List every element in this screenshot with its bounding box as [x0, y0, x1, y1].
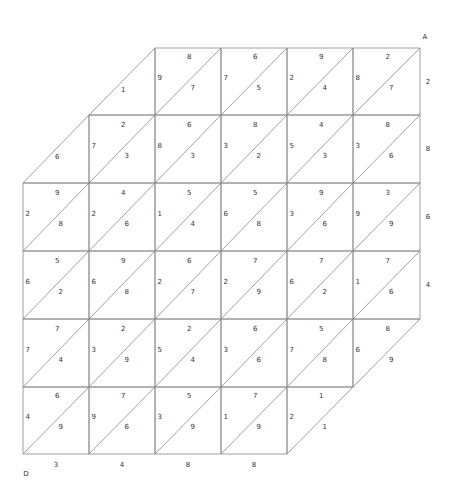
cell-top-digit: 7 [386, 257, 390, 264]
cell-left-digit: 8 [355, 75, 359, 82]
cell-left-digit: 6 [223, 210, 227, 217]
cell-top-digit: 5 [187, 189, 191, 196]
cell-left-digit: 5 [157, 346, 161, 353]
cell-top-digit: 5 [55, 257, 59, 264]
cell-top-digit: 7 [55, 325, 59, 332]
corner-label-a: A [423, 34, 428, 41]
right-edge-label: 4 [426, 282, 430, 289]
cell-bottom-digit: 3 [190, 152, 194, 159]
cell-bottom-digit: 6 [124, 424, 128, 431]
cell-top-digit: 7 [253, 257, 257, 264]
cell-top-digit: 6 [55, 393, 59, 400]
cell-bottom-digit: 8 [58, 220, 62, 227]
cell-top-digit: 5 [319, 325, 323, 332]
cell-left-digit: 4 [25, 414, 29, 421]
cell-bottom-digit: 3 [322, 152, 326, 159]
cell-top-digit: 4 [319, 121, 323, 128]
corner-label-d: D [23, 471, 28, 478]
cell-bottom-digit: 4 [322, 85, 326, 92]
cell-top-digit: 6 [187, 121, 191, 128]
right-edge-label: 8 [426, 146, 430, 153]
cell-bottom-digit: 4 [58, 356, 62, 363]
cell-bottom-digit: 9 [190, 424, 194, 431]
cell-bottom-digit: 4 [190, 356, 194, 363]
cell-left-digit: 6 [355, 346, 359, 353]
cell-left-digit: 6 [91, 278, 95, 285]
cell-left-digit: 9 [91, 414, 95, 421]
cell-left-digit: 2 [289, 75, 293, 82]
cell-top-digit: 7 [253, 393, 257, 400]
cell-bottom-digit: 9 [124, 356, 128, 363]
cell-bottom-digit: 9 [58, 424, 62, 431]
cell-bottom-digit: 6 [256, 356, 260, 363]
cell-bottom-digit: 8 [256, 220, 260, 227]
bottom-edge-label: 4 [120, 462, 124, 469]
cell-left-digit: 1 [157, 210, 161, 217]
cell-bottom-digit: 6 [55, 154, 59, 161]
cell-bottom-digit: 5 [256, 85, 260, 92]
cell-top-digit: 9 [319, 189, 323, 196]
cell-bottom-digit: 4 [190, 220, 194, 227]
cell-bottom-digit: 1 [121, 86, 125, 93]
bottom-edge-label: 8 [186, 462, 190, 469]
bottom-edge-label: 3 [54, 462, 58, 469]
lattice-multiplication-grid: A D 189767592428762736838324538369284265… [0, 0, 455, 501]
right-edge-label: 2 [426, 78, 430, 85]
cell-bottom-digit: 7 [190, 85, 194, 92]
cell-left-digit: 3 [355, 142, 359, 149]
cell-left-digit: 3 [223, 142, 227, 149]
cell-top-digit: 3 [386, 189, 390, 196]
cell-bottom-digit: 7 [190, 288, 194, 295]
cell-bottom-digit: 7 [389, 85, 393, 92]
cell-left-digit: 2 [289, 414, 293, 421]
cell-bottom-digit: 3 [124, 152, 128, 159]
cell-bottom-digit: 8 [322, 356, 326, 363]
cell-top-digit: 8 [386, 121, 390, 128]
cell-top-digit: 4 [121, 189, 125, 196]
cell-left-digit: 1 [355, 278, 359, 285]
cell-left-digit: 2 [157, 278, 161, 285]
cell-left-digit: 3 [157, 414, 161, 421]
cell-bottom-digit: 2 [58, 288, 62, 295]
cell-left-digit: 8 [157, 142, 161, 149]
cell-left-digit: 3 [91, 346, 95, 353]
cell-top-digit: 9 [55, 189, 59, 196]
cell-bottom-digit: 9 [389, 220, 393, 227]
cell-left-digit: 6 [25, 278, 29, 285]
cell-top-digit: 5 [187, 393, 191, 400]
cell-bottom-digit: 8 [124, 288, 128, 295]
cell-top-digit: 7 [121, 393, 125, 400]
cell-left-digit: 2 [223, 278, 227, 285]
cell-top-digit: 7 [319, 257, 323, 264]
cell-top-digit: 6 [253, 54, 257, 61]
cell-top-digit: 8 [187, 54, 191, 61]
bottom-edge-label: 8 [252, 462, 256, 469]
cell-top-digit: 8 [253, 121, 257, 128]
cell-left-digit: 6 [289, 278, 293, 285]
cell-top-digit: 2 [386, 54, 390, 61]
cell-left-digit: 7 [289, 346, 293, 353]
cell-bottom-digit: 6 [389, 288, 393, 295]
cell-bottom-digit: 9 [256, 288, 260, 295]
cell-bottom-digit: 6 [389, 152, 393, 159]
cell-top-digit: 5 [253, 189, 257, 196]
cell-left-digit: 9 [157, 75, 161, 82]
cell-bottom-digit: 2 [256, 152, 260, 159]
cell-bottom-digit: 6 [124, 220, 128, 227]
right-edge-label: 6 [426, 214, 430, 221]
cell-top-digit: 2 [121, 325, 125, 332]
cell-left-digit: 2 [25, 210, 29, 217]
cell-left-digit: 1 [223, 414, 227, 421]
cell-bottom-digit: 6 [322, 220, 326, 227]
cell-left-digit: 7 [223, 75, 227, 82]
cell-top-digit: 2 [187, 325, 191, 332]
cell-top-digit: 6 [187, 257, 191, 264]
cell-left-digit: 3 [289, 210, 293, 217]
cell-bottom-digit: 9 [256, 424, 260, 431]
cell-left-digit: 7 [91, 142, 95, 149]
cell-left-digit: 7 [25, 346, 29, 353]
cell-bottom-digit: 2 [322, 288, 326, 295]
cell-left-digit: 3 [223, 346, 227, 353]
cell-top-digit: 2 [121, 121, 125, 128]
cell-bottom-digit: 1 [322, 424, 326, 431]
